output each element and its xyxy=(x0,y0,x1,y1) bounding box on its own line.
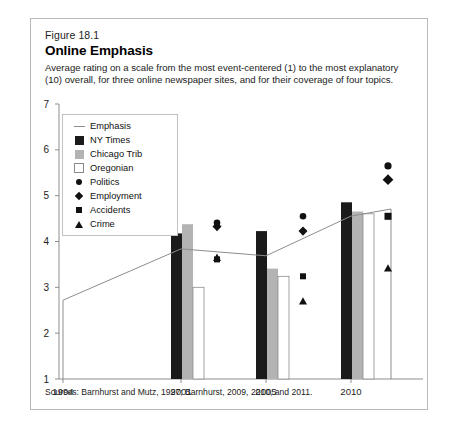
y-tick-label: 5 xyxy=(43,190,49,201)
legend-diamond-icon xyxy=(68,193,90,199)
y-tick-label: 4 xyxy=(43,236,49,247)
legend-item-accidents: Accidents xyxy=(68,203,172,217)
legend-square-white-icon xyxy=(68,163,90,173)
bar-oregonian-2001 xyxy=(193,287,204,379)
bar-nytimes-2010 xyxy=(341,202,352,379)
legend-item-chicago-trib: Chicago Trib xyxy=(68,147,172,161)
marker-employment-2005 xyxy=(298,227,307,236)
legend-square-gray-icon xyxy=(68,150,90,159)
legend-label: Employment xyxy=(90,191,142,201)
x-tick-label-2010: 2010 xyxy=(340,386,361,397)
marker-accidents-2005 xyxy=(300,273,306,279)
marker-crime-2005 xyxy=(299,297,307,304)
legend-label: Emphasis xyxy=(90,121,131,131)
y-tick-label: 3 xyxy=(43,282,49,293)
legend-label: Oregonian xyxy=(90,163,133,173)
figure-panel: Figure 18.1 Online Emphasis Average rati… xyxy=(30,18,428,410)
bar-chicagotrib-2010 xyxy=(352,212,363,380)
y-tick-label: 2 xyxy=(43,328,49,339)
legend-square-black-icon xyxy=(68,136,90,145)
legend-square-small-icon xyxy=(68,207,90,213)
marker-accidents-2010 xyxy=(385,213,392,220)
bar-nytimes-2001 xyxy=(171,233,182,379)
legend-label: Crime xyxy=(90,219,115,229)
legend-item-oregonian: Oregonian xyxy=(68,161,172,175)
legend-item-emphasis: Emphasis xyxy=(68,119,172,133)
legend-item-politics: Politics xyxy=(68,175,172,189)
sources-note: Sources: Barnhurst and Mutz, 1997; Barnh… xyxy=(45,387,312,397)
bar-nytimes-2005 xyxy=(256,231,267,379)
legend-item-crime: Crime xyxy=(68,217,172,231)
legend-triangle-icon xyxy=(68,221,90,228)
bar-oregonian-2005 xyxy=(278,276,289,379)
legend-label: Accidents xyxy=(90,205,130,215)
legend-line-icon xyxy=(68,126,90,127)
marker-employment-2010 xyxy=(383,174,394,185)
legend-label: Chicago Trib xyxy=(90,149,142,159)
legend-label: Politics xyxy=(90,177,119,187)
y-tick-label: 1 xyxy=(43,374,49,385)
marker-politics-2010 xyxy=(384,162,391,169)
chart-legend: Emphasis NY Times Chicago Trib Oregonian… xyxy=(62,114,178,236)
marker-politics-2005 xyxy=(300,213,307,220)
legend-item-ny-times: NY Times xyxy=(68,133,172,147)
y-tick-label: 7 xyxy=(43,99,49,110)
bar-chicagotrib-2005 xyxy=(267,269,278,379)
x-tick-marks xyxy=(63,379,351,383)
y-tick-marks xyxy=(55,104,59,379)
bar-chicagotrib-2001 xyxy=(182,224,193,379)
legend-item-employment: Employment xyxy=(68,189,172,203)
y-tick-label: 6 xyxy=(43,144,49,155)
legend-label: NY Times xyxy=(90,135,130,145)
bar-oregonian-2010 xyxy=(363,214,374,379)
legend-circle-icon xyxy=(68,179,90,185)
